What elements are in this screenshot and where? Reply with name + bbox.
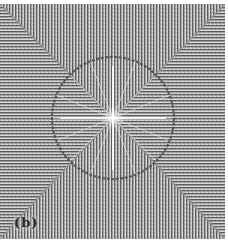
panel-label: (b) bbox=[13, 216, 39, 230]
moire-pattern-image bbox=[0, 4, 225, 239]
moire-figure-panel bbox=[0, 4, 225, 239]
center-bright-spot bbox=[101, 106, 125, 130]
